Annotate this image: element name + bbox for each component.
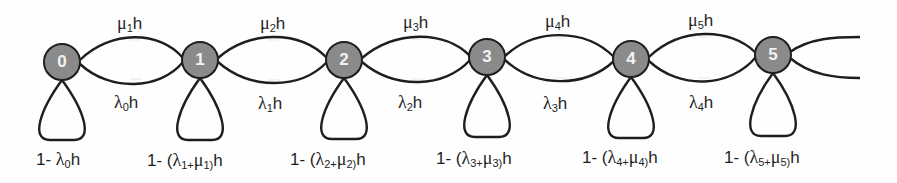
rate-label-mu2: μ2h bbox=[260, 14, 285, 32]
rate-label-lambda2: λ2h bbox=[398, 93, 422, 111]
rate-label-lambda4: λ4h bbox=[689, 93, 713, 111]
self-loop-label-0: 1- λ0h bbox=[36, 150, 80, 168]
self-loop-label-1: 1- (λ1+μ1)h bbox=[147, 151, 223, 169]
state-label-1: 1 bbox=[182, 42, 218, 78]
state-nodes bbox=[44, 37, 791, 80]
birth-death-markov-chain: 0 1 2 3 4 5 μ1h μ2h μ3h μ4h μ5h λ0h λ1h … bbox=[0, 0, 897, 183]
self-loop-label-2: 1- (λ2+μ2)h bbox=[290, 150, 366, 168]
rate-label-mu3: μ3h bbox=[403, 13, 428, 31]
state-label-3: 3 bbox=[469, 39, 505, 75]
self-loop-label-4: 1- (λ4+μ4)h bbox=[582, 148, 658, 166]
state-label-5: 5 bbox=[755, 37, 791, 73]
edge-lambda0 bbox=[80, 62, 183, 84]
rate-label-lambda3: λ3h bbox=[543, 94, 567, 112]
state-label-2: 2 bbox=[326, 42, 362, 78]
self-loop-label-5: 1- (λ5+μ5)h bbox=[724, 148, 800, 166]
rate-label-mu5: μ5h bbox=[688, 11, 713, 29]
rate-label-lambda1: λ1h bbox=[258, 94, 282, 112]
state-label-0: 0 bbox=[44, 44, 80, 80]
rate-label-mu1: μ1h bbox=[117, 14, 142, 32]
rate-label-lambda0: λ0h bbox=[114, 93, 138, 111]
rate-label-mu4: μ4h bbox=[545, 12, 570, 30]
edge-mu1 bbox=[80, 37, 183, 60]
self-loop-label-3: 1- (λ3+μ3)h bbox=[436, 149, 512, 167]
state-label-4: 4 bbox=[613, 41, 649, 77]
